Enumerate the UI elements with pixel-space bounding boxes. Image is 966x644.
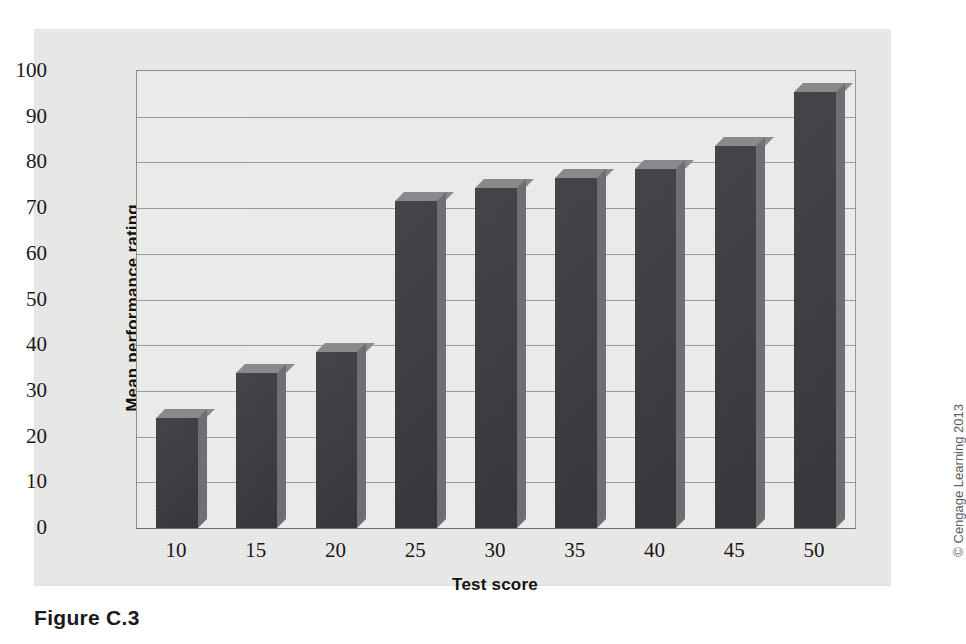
bar-slot — [715, 71, 756, 528]
y-tick-label: 90 — [0, 103, 47, 128]
bar — [236, 373, 277, 528]
bar — [475, 188, 516, 528]
y-tick-label: 0 — [0, 515, 47, 540]
x-tick-label: 50 — [784, 538, 844, 563]
x-axis-title: Test score — [136, 575, 854, 595]
x-tick-label: 15 — [226, 538, 286, 563]
bar — [794, 92, 835, 528]
bar-side-face — [198, 409, 207, 528]
copyright-credit: © Cengage Learning 2013 — [951, 404, 966, 557]
y-tick-label: 70 — [0, 195, 47, 220]
x-tick-label: 40 — [625, 538, 685, 563]
bar — [555, 178, 596, 528]
bar-slot — [555, 71, 596, 528]
x-tick-label: 25 — [385, 538, 445, 563]
y-tick-label: 60 — [0, 240, 47, 265]
bar-side-face — [357, 343, 366, 528]
bar-side-face — [277, 364, 286, 528]
bar-slot — [236, 71, 277, 528]
y-tick-label: 30 — [0, 377, 47, 402]
bar-slot — [395, 71, 436, 528]
bar-slot — [794, 71, 835, 528]
bar-top-face — [395, 192, 454, 201]
bar-side-face — [437, 192, 446, 528]
figure-caption: Figure C.3 — [34, 606, 140, 630]
bar-slot — [475, 71, 516, 528]
y-tick-label: 40 — [0, 332, 47, 357]
gridline-0 — [137, 528, 855, 529]
y-tick-label: 20 — [0, 423, 47, 448]
bar — [156, 418, 197, 528]
x-tick-label: 35 — [545, 538, 605, 563]
bar-side-face — [676, 160, 685, 528]
y-tick-label: 50 — [0, 286, 47, 311]
figure-panel: Mean performance rating 1009080706050403… — [35, 30, 890, 585]
plot-area — [136, 70, 856, 529]
bar — [395, 201, 436, 528]
x-tick-label: 30 — [465, 538, 525, 563]
y-tick-label: 100 — [0, 58, 47, 83]
bar-slot — [316, 71, 357, 528]
y-tick-label: 80 — [0, 149, 47, 174]
bar-side-face — [597, 169, 606, 528]
bar-top-face — [635, 160, 694, 169]
x-tick-label: 10 — [146, 538, 206, 563]
y-tick-label: 10 — [0, 469, 47, 494]
bar — [316, 352, 357, 528]
bar-side-face — [756, 137, 765, 528]
x-tick-label: 45 — [704, 538, 764, 563]
bar-top-face — [715, 137, 774, 146]
x-tick-label: 20 — [305, 538, 365, 563]
bar-slot — [635, 71, 676, 528]
bar-side-face — [517, 179, 526, 528]
bar-top-face — [316, 343, 375, 352]
bar-slot — [156, 71, 197, 528]
bar-side-face — [836, 83, 845, 528]
bar — [715, 146, 756, 528]
bar-top-face — [236, 364, 295, 373]
bar — [635, 169, 676, 528]
